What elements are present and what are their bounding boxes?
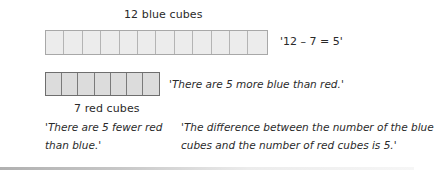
blue-cubes-label: 12 blue cubes: [124, 8, 203, 21]
cube: [95, 73, 111, 95]
cube: [101, 31, 119, 54]
cube: [248, 31, 266, 54]
blue-cubes-bar: [45, 30, 268, 55]
red-cubes-label: 7 red cubes: [74, 102, 140, 115]
cube: [120, 31, 138, 54]
fewer-red-line-2: than blue.': [45, 136, 101, 154]
cube: [175, 31, 193, 54]
cube: [193, 31, 211, 54]
red-cubes-bar: [45, 72, 160, 96]
equation-statement: '12 – 7 = 5': [280, 33, 343, 51]
cube: [64, 31, 82, 54]
fewer-red-line-1: 'There are 5 fewer red: [45, 118, 162, 136]
more-blue-statement: 'There are 5 more blue than red.': [169, 75, 344, 93]
difference-line-2: cubes and the number of red cubes is 5.': [181, 136, 397, 154]
difference-line-1: 'The difference between the number of th…: [181, 118, 434, 136]
cube: [83, 31, 101, 54]
cube: [156, 31, 174, 54]
cube: [230, 31, 248, 54]
cube: [212, 31, 230, 54]
cube: [46, 73, 62, 95]
cube: [127, 73, 143, 95]
cube: [143, 73, 159, 95]
cube: [62, 73, 78, 95]
cube: [111, 73, 127, 95]
bottom-divider: [0, 167, 414, 170]
cube: [78, 73, 94, 95]
cube: [46, 31, 64, 54]
cube: [138, 31, 156, 54]
